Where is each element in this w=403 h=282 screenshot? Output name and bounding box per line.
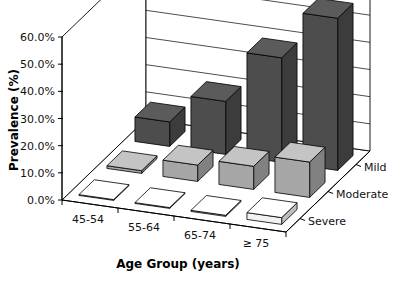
series-label-severe: Severe [308,215,346,228]
z-tick-mark [300,219,305,221]
x-axis-title: Age Group (years) [116,257,240,271]
bar-front-face [247,53,282,163]
bar-side-face [338,3,353,170]
y-tick-label: 60.0% [20,31,55,44]
bar-front-face [275,157,310,197]
bar-moderate-≥ 75 [275,142,325,197]
series-label-mild: Mild [364,161,387,174]
z-tick-mark [356,165,361,167]
x-category-label: ≥ 75 [243,237,270,250]
prevalence-3d-bar-chart: 0.0%10.0%20.0%30.0%40.0%50.0%60.0%45-545… [0,0,403,282]
z-tick-mark [328,192,333,194]
x-category-label: 55-64 [128,221,160,234]
y-tick-label: 10.0% [20,167,55,180]
series-label-moderate: Moderate [336,188,389,201]
y-tick-label: 0.0% [27,194,55,207]
chart-canvas: 0.0%10.0%20.0%30.0%40.0%50.0%60.0%45-545… [0,0,403,282]
bar-mild-55-64 [191,82,241,155]
y-axis-title: Prevalence (%) [7,69,21,171]
y-tick-label: 50.0% [20,58,55,71]
bar-front-face [191,96,226,154]
y-tick-label: 30.0% [20,113,55,126]
x-category-label: 45-54 [72,213,104,226]
x-category-label: 65-74 [184,229,216,242]
y-tick-label: 20.0% [20,140,55,153]
y-tick-label: 40.0% [20,85,55,98]
